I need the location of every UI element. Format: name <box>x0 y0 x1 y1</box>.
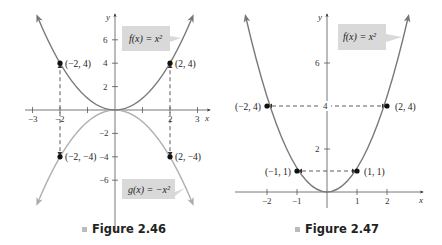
point-label: (−2, 4) <box>65 59 91 70</box>
y-tick-label: 2 <box>315 144 320 154</box>
y-axis-label: y <box>317 12 322 22</box>
x-tick-label: −1 <box>292 196 302 206</box>
x-axis-label: x <box>204 113 209 123</box>
caption-bullet-icon <box>295 227 300 232</box>
x-axis-label: x <box>418 195 423 205</box>
y-tick-label: 4 <box>323 101 328 111</box>
g-label-box: g(x) = −x² <box>122 179 185 199</box>
point-label: (−1, 1) <box>265 167 291 178</box>
figures-canvas: −3 −2 2 3 x y 6 4 2 −2 −6 (−2, 4) (2, 4)… <box>0 0 442 245</box>
y-tick-label: 6 <box>315 58 320 68</box>
point-label: (2, −4) <box>175 152 201 163</box>
y-tick-label: −4 <box>99 152 109 162</box>
x-tick-label: 2 <box>385 196 390 206</box>
svg-text:f(x) = x²: f(x) = x² <box>129 33 163 45</box>
point-label: (−2, 4) <box>235 102 261 113</box>
point-label: (1, 1) <box>364 167 385 178</box>
figure-caption-2-47: Figure 2.47 <box>295 222 379 236</box>
y-tick-label: 2 <box>103 82 108 92</box>
point-label: (2, 4) <box>175 59 196 70</box>
y-tick-label: −2 <box>99 128 109 138</box>
point-label: (2, 4) <box>395 102 416 113</box>
figure-2-46: −3 −2 2 3 x y 6 4 2 −2 −6 (−2, 4) (2, 4)… <box>25 12 210 232</box>
f-label-box: f(x) = x² <box>122 26 181 51</box>
caption-bullet-icon <box>82 227 87 232</box>
x-tick-label: −3 <box>28 114 38 124</box>
y-axis-label: y <box>105 12 110 22</box>
x-tick-label: 1 <box>355 196 360 206</box>
y-tick-label: 6 <box>103 35 108 45</box>
svg-text:f(x) = x²: f(x) = x² <box>343 31 377 43</box>
figure-2-47: −2 −1 1 2 x y 2 6 4 (−2, 4) (2, 4) (−1, … <box>235 12 423 208</box>
point-label: (−2, −4) <box>65 152 96 163</box>
f-label-box: f(x) = x² <box>338 24 402 50</box>
x-tick-label: 3 <box>195 114 200 124</box>
x-tick-label: −2 <box>262 196 272 206</box>
svg-text:g(x) = −x²: g(x) = −x² <box>128 184 171 196</box>
figure-caption-2-46: Figure 2.46 <box>82 222 166 236</box>
y-tick-label: 4 <box>103 58 108 68</box>
y-tick-label: −6 <box>99 175 109 185</box>
